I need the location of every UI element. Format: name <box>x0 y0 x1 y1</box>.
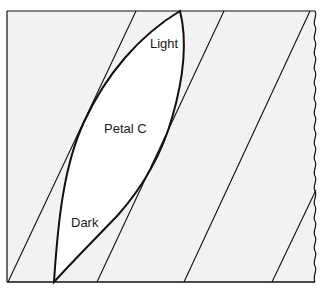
petal-diagram: Light Petal C Dark <box>0 0 322 289</box>
label-dark: Dark <box>71 215 99 230</box>
label-light: Light <box>150 36 179 51</box>
label-petal-c: Petal C <box>104 121 147 136</box>
